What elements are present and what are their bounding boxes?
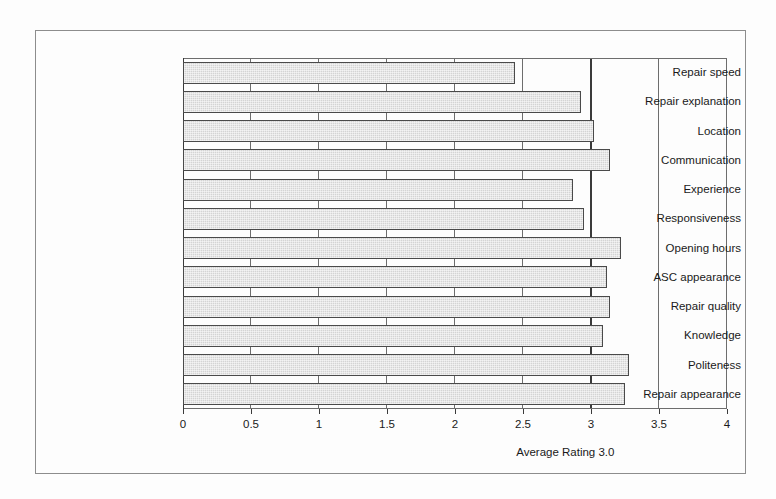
bar-cell bbox=[183, 87, 727, 116]
bar-cell bbox=[183, 175, 727, 204]
bar[interactable] bbox=[183, 62, 515, 84]
bar-row: Communication bbox=[36, 146, 747, 175]
bar-cell bbox=[183, 234, 727, 263]
bar-cell bbox=[183, 263, 727, 292]
bar-cell bbox=[183, 380, 727, 409]
bar-row: Location bbox=[36, 117, 747, 146]
bar[interactable] bbox=[183, 120, 594, 142]
bar[interactable] bbox=[183, 325, 603, 347]
x-tick-mark bbox=[319, 409, 320, 414]
bar[interactable] bbox=[183, 179, 573, 201]
bar-row: Knowledge bbox=[36, 321, 747, 350]
x-tick-label: 4 bbox=[707, 418, 747, 430]
average-rating-value: 3.0 bbox=[598, 446, 614, 458]
chart-frame: Repair speedRepair explanationLocationCo… bbox=[35, 30, 746, 474]
bar-cell bbox=[183, 117, 727, 146]
bar-row: Repair explanation bbox=[36, 87, 747, 116]
x-tick-mark bbox=[523, 409, 524, 414]
x-tick-label: 2 bbox=[435, 418, 475, 430]
bar-row: Repair quality bbox=[36, 292, 747, 321]
bar-cell bbox=[183, 292, 727, 321]
bar-cell bbox=[183, 351, 727, 380]
bar[interactable] bbox=[183, 91, 581, 113]
bar[interactable] bbox=[183, 237, 621, 259]
x-tick-label: 1.5 bbox=[367, 418, 407, 430]
bar[interactable] bbox=[183, 354, 629, 376]
bar-row: Politeness bbox=[36, 351, 747, 380]
bar[interactable] bbox=[183, 383, 625, 405]
bar-row: Responsiveness bbox=[36, 204, 747, 233]
x-tick-label: 3.5 bbox=[639, 418, 679, 430]
x-tick-mark bbox=[455, 409, 456, 414]
bar-row: Repair speed bbox=[36, 58, 747, 87]
bar-cell bbox=[183, 58, 727, 87]
x-axis-title: Average Rating 3.0 bbox=[516, 446, 614, 458]
x-tick-label: 0 bbox=[163, 418, 203, 430]
x-tick-mark bbox=[727, 409, 728, 414]
bar[interactable] bbox=[183, 208, 584, 230]
bar-chart: Repair speedRepair explanationLocationCo… bbox=[36, 31, 747, 475]
chart-screenshot: Repair speedRepair explanationLocationCo… bbox=[0, 0, 776, 499]
x-tick-mark bbox=[251, 409, 252, 414]
x-tick-label: 3 bbox=[571, 418, 611, 430]
x-tick-label: 0.5 bbox=[231, 418, 271, 430]
x-tick-mark bbox=[659, 409, 660, 414]
x-axis-title-text: Average Rating bbox=[516, 446, 595, 458]
bar-row: Opening hours bbox=[36, 234, 747, 263]
x-tick-mark bbox=[183, 409, 184, 414]
bar-row: Repair appearance bbox=[36, 380, 747, 409]
bar[interactable] bbox=[183, 266, 607, 288]
bar-row: ASC appearance bbox=[36, 263, 747, 292]
bar-row: Experience bbox=[36, 175, 747, 204]
bar-cell bbox=[183, 321, 727, 350]
bar-cell bbox=[183, 146, 727, 175]
bar[interactable] bbox=[183, 296, 610, 318]
x-tick-mark bbox=[591, 409, 592, 414]
bar[interactable] bbox=[183, 149, 610, 171]
x-tick-label: 1 bbox=[299, 418, 339, 430]
x-tick-label: 2.5 bbox=[503, 418, 543, 430]
x-tick-mark bbox=[387, 409, 388, 414]
bar-cell bbox=[183, 204, 727, 233]
